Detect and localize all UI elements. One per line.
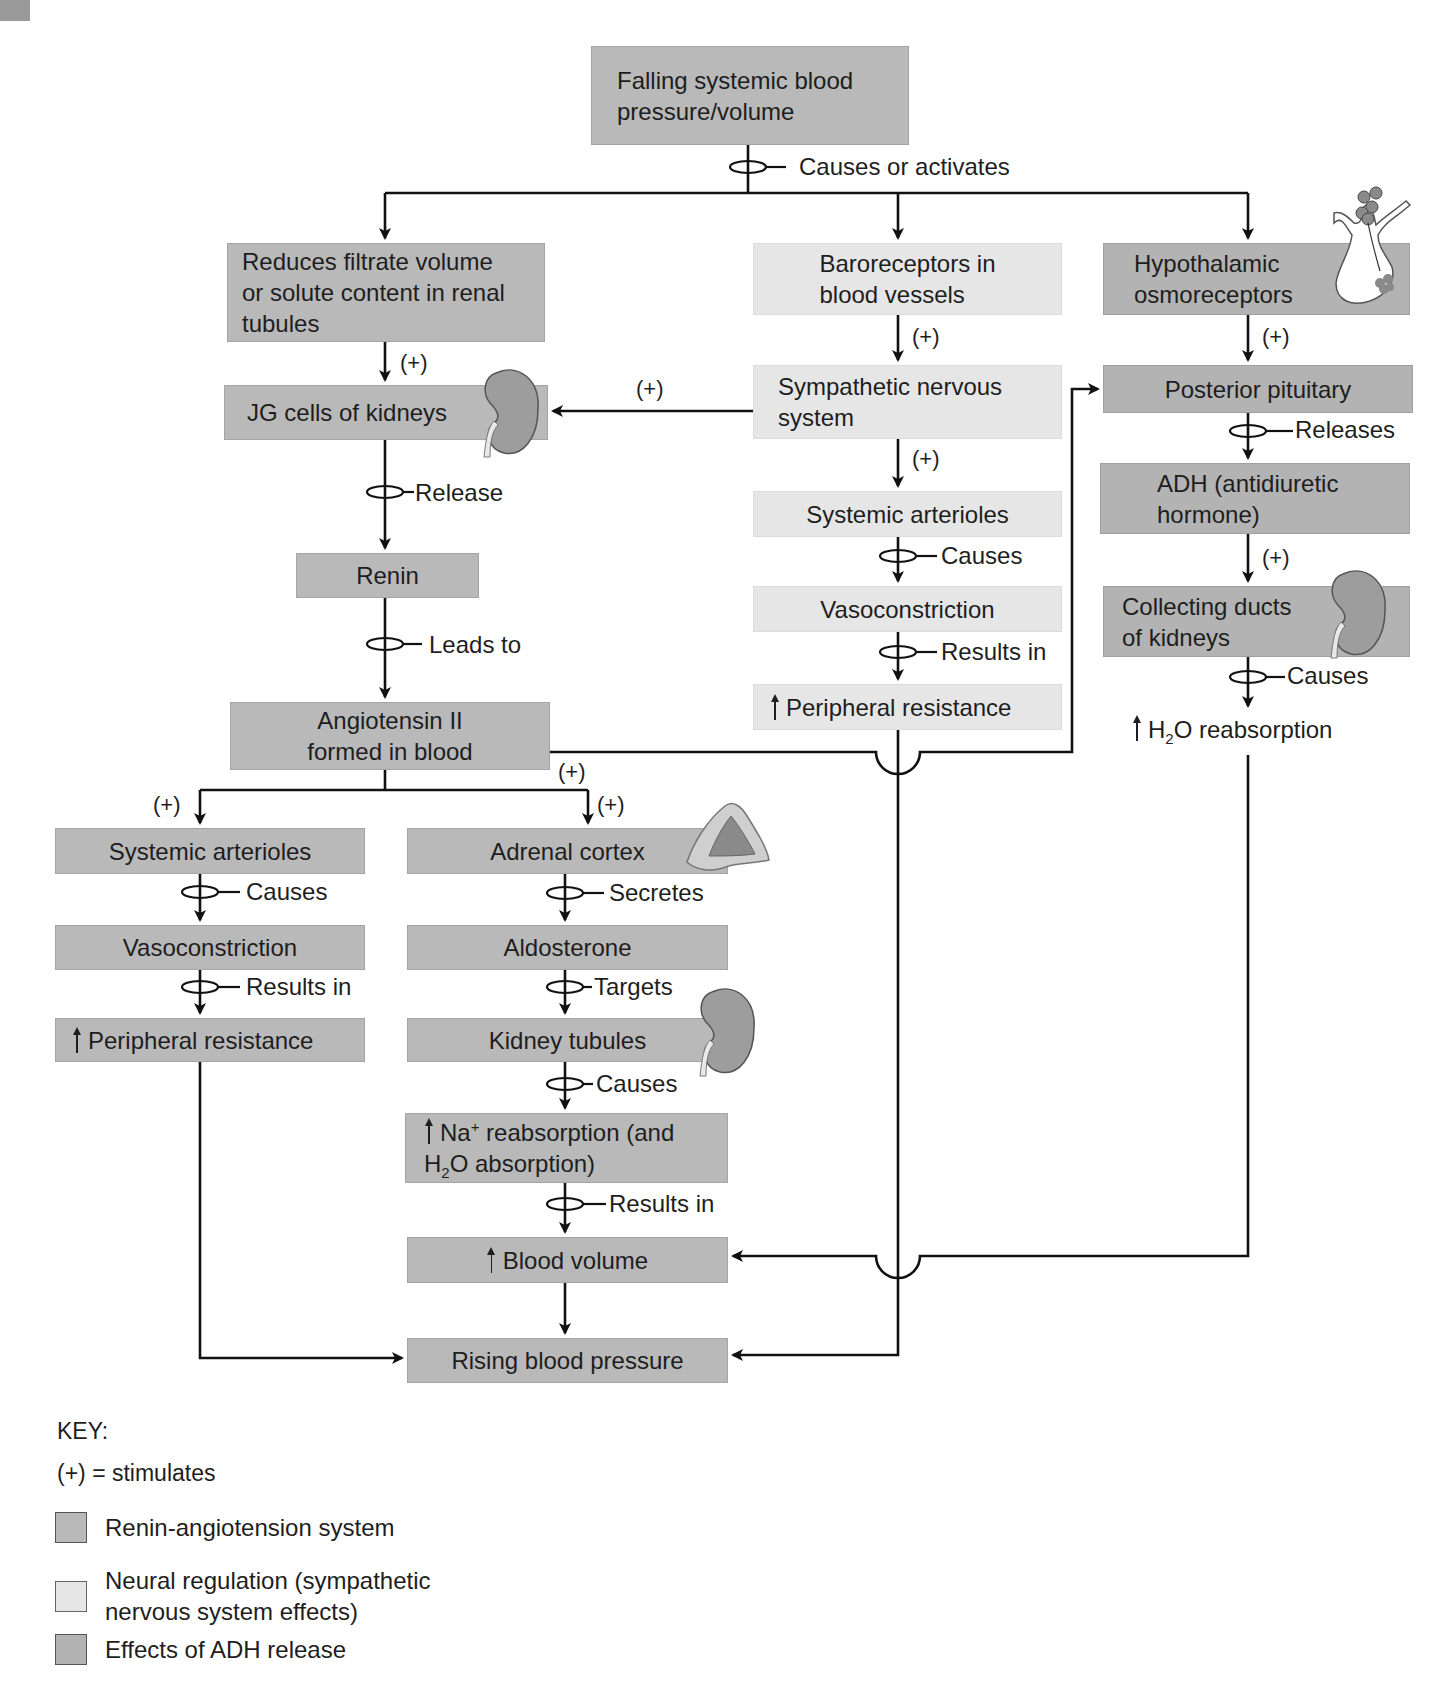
systemic-arterioles-ra-box: Systemic arterioles — [55, 828, 365, 874]
key-title: KEY: — [57, 1418, 108, 1445]
key-item-renin-angiotensin: Renin-angiotension system — [55, 1512, 395, 1543]
reduces-filtrate-box: Reduces filtrate volume or solute conten… — [227, 243, 545, 342]
increase-arrow-icon — [487, 1247, 497, 1273]
causes-label: Causes — [596, 1070, 677, 1098]
stimulates-mark: (+) — [912, 324, 940, 350]
systemic-arterioles-neural-box: Systemic arterioles — [753, 491, 1062, 537]
increase-arrow-icon — [1132, 715, 1142, 741]
osmoreceptor-neuron-icon — [1320, 183, 1416, 313]
causes-or-activates-label: Causes or activates — [799, 153, 1010, 181]
adh-box: ADH (antidiuretic hormone) — [1100, 463, 1410, 534]
h2o-reabsorption-label: H2O reabsorption — [1132, 715, 1332, 744]
sympathetic-nervous-system-box: Sympathetic nervous system — [753, 365, 1062, 439]
causes-label: Causes — [246, 878, 327, 906]
targets-label: Targets — [594, 973, 673, 1001]
angiotensin-ii-box: Angiotensin II formed in blood — [230, 702, 550, 770]
stimulates-mark: (+) — [400, 350, 428, 376]
stimulates-mark: (+) — [153, 792, 181, 818]
release-label: Release — [415, 479, 503, 507]
legend-swatch — [55, 1581, 87, 1612]
stimulates-mark: (+) — [1262, 545, 1290, 571]
stimulates-mark: (+) — [636, 376, 664, 402]
posterior-pituitary-box: Posterior pituitary — [1103, 365, 1413, 413]
vasoconstriction-neural-box: Vasoconstriction — [753, 586, 1062, 632]
stimulates-mark: (+) — [597, 792, 625, 818]
causes-label: Causes — [941, 542, 1022, 570]
leads-to-label: Leads to — [429, 631, 521, 659]
na-reabsorption-box: Na+ reabsorption (and H2O absorption) — [405, 1113, 728, 1183]
renin-box: Renin — [296, 553, 479, 598]
baroreceptors-box: Baroreceptors in blood vessels — [753, 243, 1062, 315]
increase-arrow-icon — [770, 694, 780, 720]
key-item-adh-effects: Effects of ADH release — [55, 1634, 346, 1665]
results-in-label: Results in — [609, 1190, 714, 1218]
adrenal-cortex-box: Adrenal cortex — [407, 828, 728, 874]
causes-label: Causes — [1287, 662, 1368, 690]
legend-swatch — [55, 1634, 87, 1665]
stimulates-mark: (+) — [1262, 324, 1290, 350]
results-in-label: Results in — [941, 638, 1046, 666]
peripheral-resistance-ra-box: Peripheral resistance — [55, 1018, 365, 1062]
kidney-icon — [694, 984, 760, 1080]
increase-arrow-icon — [424, 1118, 434, 1144]
vasoconstriction-ra-box: Vasoconstriction — [55, 925, 365, 970]
stimulates-mark: (+) — [912, 446, 940, 472]
aldosterone-box: Aldosterone — [407, 925, 728, 970]
blood-volume-box: Blood volume — [407, 1237, 728, 1283]
stimulates-mark: (+) — [558, 759, 586, 785]
falling-blood-pressure-box: Falling systemic bloodpressure/volume — [591, 46, 909, 145]
secretes-label: Secretes — [609, 879, 704, 907]
results-in-label: Results in — [246, 973, 351, 1001]
key-stimulates-definition: (+) = stimulates — [57, 1460, 216, 1487]
adrenal-gland-icon — [683, 800, 773, 872]
increase-arrow-icon — [72, 1027, 82, 1053]
legend-swatch — [55, 1512, 87, 1543]
kidney-tubules-box: Kidney tubules — [407, 1018, 728, 1062]
key-item-neural-regulation: Neural regulation (sympathetic nervous s… — [55, 1565, 431, 1627]
peripheral-resistance-neural-box: Peripheral resistance — [753, 684, 1062, 730]
releases-label: Releases — [1295, 416, 1395, 444]
kidney-icon — [1325, 566, 1391, 662]
rising-blood-pressure-box: Rising blood pressure — [407, 1338, 728, 1383]
kidney-icon — [478, 365, 544, 461]
